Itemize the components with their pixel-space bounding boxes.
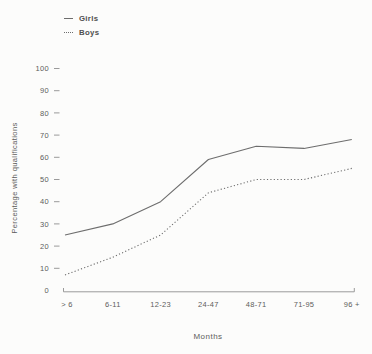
y-tick-label: 0 [45, 286, 49, 295]
x-tick-label: 48-71 [246, 300, 267, 309]
y-tick-label: 50 [40, 175, 49, 184]
y-tick-label: 40 [40, 197, 49, 206]
y-tick-label: 30 [40, 220, 49, 229]
x-axis-title: Months [193, 332, 222, 341]
x-tick-label: 96 + [344, 300, 360, 309]
y-tick-label: 20 [40, 242, 49, 251]
x-tick-label: 71-95 [294, 300, 315, 309]
y-tick-label: 100 [36, 64, 49, 73]
x-axis-line [64, 288, 355, 292]
y-tick-label: 70 [40, 131, 49, 140]
y-tick-label: 60 [40, 153, 49, 162]
x-tick-label: 6-11 [105, 300, 121, 309]
plot-area: 0102030405060708090100> 66-1112-2324-474… [0, 0, 372, 354]
y-tick-label: 10 [40, 264, 49, 273]
x-tick-label: 12-23 [150, 300, 171, 309]
line-chart: GirlsBoys Percentage with qualifications… [0, 0, 372, 354]
x-tick-label: 24-47 [198, 300, 219, 309]
series-line-girls [65, 140, 352, 235]
y-tick-label: 90 [40, 86, 49, 95]
y-tick-label: 80 [40, 109, 49, 118]
x-tick-label: > 6 [61, 300, 73, 309]
series-line-boys [65, 168, 352, 275]
